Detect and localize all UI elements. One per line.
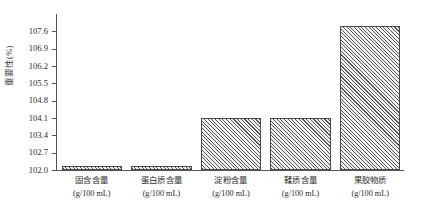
bar-4 (270, 118, 330, 170)
y-axis-tick-label: 103.4 (29, 130, 48, 141)
x-axis-category-3: 淀粉含量(g/100 mL) (196, 174, 266, 200)
x-axis-category-labels: 固含含量(g/100 mL)蛋白质含量(g/100 mL)淀粉含量(g/100 … (57, 174, 404, 214)
category-unit: (g/100 mL) (127, 187, 197, 200)
y-axis-tick-label: 104.1 (29, 113, 48, 124)
bar-chart-figure: 重要性(%) 102.0102.7103.4104.1104.8105.5106… (0, 0, 421, 219)
x-axis-category-5: 果胶物质(g/100 mL) (335, 174, 405, 200)
bar-2 (131, 166, 191, 170)
y-axis-tick-label: 102.7 (29, 147, 48, 158)
x-axis-category-4: 鞣质含量(g/100 mL) (266, 174, 336, 200)
bar-series (57, 14, 404, 171)
category-name: 淀粉含量 (196, 174, 266, 187)
category-unit: (g/100 mL) (196, 187, 266, 200)
y-axis-tick-labels: 102.0102.7103.4104.1104.8105.5106.2106.9… (0, 0, 56, 219)
category-name: 鞣质含量 (266, 174, 336, 187)
bar-1 (62, 166, 122, 170)
y-axis-tick-label: 106.2 (29, 61, 48, 72)
y-axis-tick-label: 106.9 (29, 43, 48, 54)
bar-5 (340, 26, 400, 170)
category-name: 固含含量 (57, 174, 127, 187)
y-axis-tick-label: 107.6 (29, 26, 48, 37)
x-axis-category-1: 固含含量(g/100 mL) (57, 174, 127, 200)
y-axis-tick-label: 105.5 (29, 78, 48, 89)
category-unit: (g/100 mL) (335, 187, 405, 200)
plot-area (56, 14, 404, 171)
y-axis-tick-label: 102.0 (29, 165, 48, 176)
category-unit: (g/100 mL) (266, 187, 336, 200)
y-axis-tick-label: 104.8 (29, 95, 48, 106)
category-unit: (g/100 mL) (57, 187, 127, 200)
category-name: 果胶物质 (335, 174, 405, 187)
bar-3 (201, 118, 261, 170)
x-axis-category-2: 蛋白质含量(g/100 mL) (127, 174, 197, 200)
category-name: 蛋白质含量 (127, 174, 197, 187)
